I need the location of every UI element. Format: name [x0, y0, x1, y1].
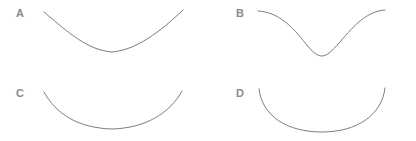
curve-c: [44, 91, 182, 129]
curve-figure: A B C D: [0, 0, 416, 141]
panel-label-d: D: [236, 88, 244, 99]
panel-label-b: B: [236, 8, 244, 19]
panel-label-c: C: [16, 88, 24, 99]
panel-label-a: A: [16, 8, 24, 19]
curve-a: [44, 10, 183, 52]
curve-b: [258, 10, 385, 56]
curve-canvas: [0, 0, 416, 141]
curve-d: [259, 88, 385, 132]
